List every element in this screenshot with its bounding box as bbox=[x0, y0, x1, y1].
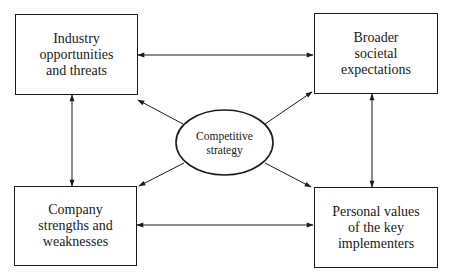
node-label: Industry opportunities and threats bbox=[40, 31, 114, 79]
node-label: Broader societal expectations bbox=[341, 30, 411, 78]
node-personal-values: Personal values of the key implementers bbox=[314, 187, 438, 268]
node-label: Competitive strategy bbox=[196, 129, 253, 157]
node-label: Company strengths and weaknesses bbox=[38, 202, 112, 250]
node-competitive-strategy: Competitive strategy bbox=[176, 110, 273, 175]
node-industry-opportunities: Industry opportunities and threats bbox=[15, 14, 138, 95]
node-company-strengths: Company strengths and weaknesses bbox=[14, 186, 137, 266]
node-label: Personal values of the key implementers bbox=[332, 204, 419, 252]
node-societal-expectations: Broader societal expectations bbox=[314, 13, 438, 94]
